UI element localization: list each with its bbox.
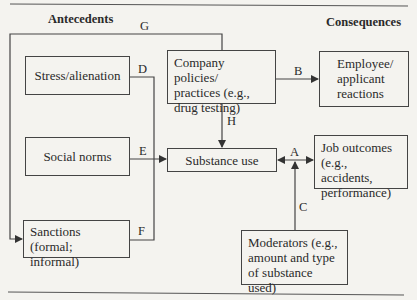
employee-line-1: Employee/ <box>337 56 402 71</box>
path-label-c: C <box>299 200 307 215</box>
consequences-header: Consequences <box>326 15 401 30</box>
company-line-2: practices (e.g., <box>174 85 269 100</box>
moderators-line-1: Moderators (e.g., <box>248 235 341 250</box>
job-line-1: Job outcomes <box>321 140 401 155</box>
stress-alienation-box: Stress/alienation <box>25 56 130 95</box>
bottom-rule <box>8 292 404 295</box>
sanctions-line-1: Sanctions <box>30 224 123 239</box>
employee-line-3: reactions <box>337 86 402 101</box>
moderators-line-3: of substance used) <box>248 265 341 295</box>
company-line-1: Company policies/ <box>174 55 269 85</box>
sanctions-box: Sanctions (formal; informal) <box>23 220 130 258</box>
company-policies-box: Company policies/ practices (e.g., drug … <box>167 50 276 104</box>
sanctions-line-2: (formal; informal) <box>30 239 123 269</box>
top-rule <box>10 4 408 6</box>
path-label-g: G <box>140 19 149 34</box>
job-line-2: (e.g., accidents, <box>321 155 401 185</box>
moderators-box: Moderators (e.g., amount and type of sub… <box>241 230 348 285</box>
social-norms-box: Social norms <box>25 137 130 176</box>
employee-line-2: applicant <box>337 71 402 86</box>
path-label-a: A <box>290 145 299 160</box>
social-norms-label: Social norms <box>43 149 111 164</box>
substance-use-box: Substance use <box>167 148 277 172</box>
job-outcomes-box: Job outcomes (e.g., accidents, performan… <box>314 135 408 189</box>
path-label-d: D <box>138 62 147 77</box>
substance-use-label: Substance use <box>185 153 258 168</box>
path-label-e: E <box>139 144 147 159</box>
stress-alienation-label: Stress/alienation <box>35 68 121 83</box>
path-label-h: H <box>227 114 236 129</box>
path-label-b: B <box>294 64 302 79</box>
antecedents-header: Antecedents <box>48 12 113 27</box>
company-line-3: drug testing) <box>174 100 269 115</box>
path-label-f: F <box>138 224 145 239</box>
job-line-3: performance) <box>321 185 401 200</box>
employee-reactions-box: Employee/ applicant reactions <box>319 51 409 107</box>
moderators-line-2: amount and type <box>248 250 341 265</box>
